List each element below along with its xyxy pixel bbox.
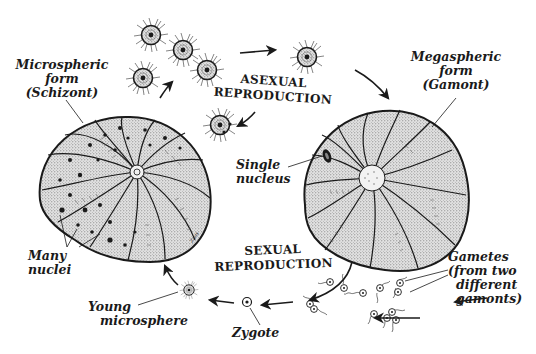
label-line: Single bbox=[236, 158, 292, 172]
label-sexual-reproduction: SEXUAL REPRODUCTION bbox=[214, 241, 333, 275]
label-line: microsphere bbox=[88, 314, 178, 328]
label-line: (Gamont) bbox=[406, 78, 506, 92]
label-line: Many bbox=[28, 249, 88, 263]
arrow-asexual-release bbox=[160, 82, 172, 98]
label-line: form bbox=[12, 72, 112, 86]
label-megaspheric-form: Megaspheric form (Gamont) bbox=[406, 50, 506, 92]
zygote-cell bbox=[243, 298, 252, 307]
arrow-asexual-down bbox=[238, 112, 255, 126]
arrow-to-megaspheric bbox=[355, 70, 388, 98]
label-line: Megaspheric bbox=[406, 50, 506, 64]
young-microsphere-cell bbox=[180, 281, 199, 300]
label-microspheric-form: Microspheric form (Schizont) bbox=[12, 58, 112, 100]
label-line: Gametes bbox=[448, 250, 536, 264]
label-line: (from two bbox=[448, 264, 536, 278]
arrow-to-microspheric bbox=[165, 266, 178, 285]
label-line: nuclei bbox=[28, 263, 88, 277]
proloculus bbox=[359, 165, 385, 191]
arrow-juvenile-growth bbox=[240, 50, 275, 53]
gametes bbox=[303, 274, 407, 332]
label-zygote: Zygote bbox=[232, 326, 288, 340]
label-line: nucleus bbox=[236, 172, 292, 186]
arrow-to-zygote bbox=[262, 302, 293, 305]
label-line: Young bbox=[88, 300, 178, 314]
label-line: form bbox=[406, 64, 506, 78]
label-line: Microspheric bbox=[12, 58, 112, 72]
label-line: different bbox=[448, 278, 536, 292]
label-line: gamonts) bbox=[448, 292, 536, 306]
label-many-nuclei: Many nuclei bbox=[28, 249, 88, 277]
label-gametes: Gametes (from two different gamonts) bbox=[448, 250, 536, 306]
arrow-to-microsphere bbox=[210, 300, 234, 303]
label-single-nucleus: Single nucleus bbox=[236, 158, 292, 186]
label-line: (Schizont) bbox=[12, 86, 112, 100]
label-young-microsphere: Young microsphere bbox=[88, 300, 178, 328]
